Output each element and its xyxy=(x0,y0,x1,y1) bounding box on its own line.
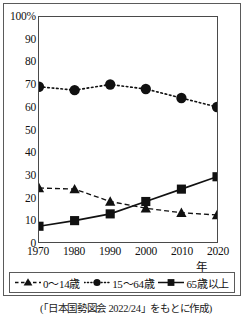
x-tick-1970: 1970 xyxy=(27,245,49,257)
circle-marker xyxy=(69,85,79,95)
legend-item-elderly: 65歳以上 xyxy=(158,275,229,291)
y-tick-90: 90 xyxy=(25,33,36,45)
x-tick-2010: 2010 xyxy=(171,245,193,257)
triangle-marker-icon xyxy=(15,277,41,288)
x-tick-2020: 2020 xyxy=(207,245,229,257)
y-tick-100: 100% xyxy=(10,10,36,22)
triangle-marker xyxy=(105,196,115,205)
figure-source-caption: (「日本国勢図会 2022/24」をもとに作成) xyxy=(40,300,245,315)
series-square-marker xyxy=(39,172,217,231)
triangle-marker xyxy=(176,208,186,217)
y-tick-50: 50 xyxy=(25,124,36,136)
legend-label-elderly: 65歳以上 xyxy=(186,275,229,291)
square-marker xyxy=(212,172,217,181)
series-circle-marker xyxy=(39,79,217,112)
y-tick-80: 80 xyxy=(25,55,36,67)
square-marker xyxy=(39,222,44,231)
legend-item-working-age: 15〜64歳 xyxy=(84,275,154,291)
chart-legend: 0〜14歳 15〜64歳 65歳以上 xyxy=(9,272,235,293)
square-marker-icon xyxy=(158,277,184,288)
y-axis-tick-labels: 100% 90 80 70 60 50 40 30 20 10 0 xyxy=(0,16,36,243)
legend-label-working-age: 15〜64歳 xyxy=(112,275,154,291)
square-marker xyxy=(141,197,150,206)
x-axis-tick-labels: 1970 1980 1990 2000 2010 2020 xyxy=(38,245,218,261)
series-triangle-marker xyxy=(39,183,217,219)
y-tick-20: 20 xyxy=(25,192,36,204)
y-tick-10: 10 xyxy=(25,214,36,226)
square-marker xyxy=(177,185,186,194)
plot-area xyxy=(38,16,218,243)
square-marker xyxy=(70,216,79,225)
circle-marker-icon xyxy=(84,277,110,288)
y-tick-30: 30 xyxy=(25,169,36,181)
series-line xyxy=(39,85,217,108)
legend-item-children: 0〜14歳 xyxy=(15,275,80,291)
circle-marker xyxy=(212,102,217,112)
population-age-composition-figure: 100% 90 80 70 60 50 40 30 20 10 0 1970 1… xyxy=(0,0,245,315)
circle-marker xyxy=(141,84,151,94)
legend-label-children: 0〜14歳 xyxy=(43,275,80,291)
circle-marker xyxy=(105,79,115,89)
series-canvas xyxy=(39,17,217,242)
x-tick-1990: 1990 xyxy=(99,245,121,257)
circle-marker xyxy=(176,93,186,103)
series-line xyxy=(39,177,217,227)
x-tick-2000: 2000 xyxy=(135,245,157,257)
circle-marker xyxy=(39,82,44,92)
x-tick-1980: 1980 xyxy=(63,245,85,257)
series-line xyxy=(39,188,217,215)
y-tick-70: 70 xyxy=(25,78,36,90)
square-marker xyxy=(106,209,115,218)
y-tick-40: 40 xyxy=(25,146,36,158)
y-tick-60: 60 xyxy=(25,101,36,113)
